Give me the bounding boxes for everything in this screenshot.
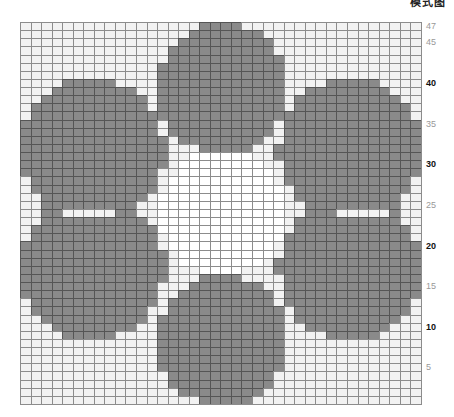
chart-cell [210, 323, 221, 331]
chart-cell [62, 168, 73, 176]
chart-cell [125, 144, 136, 152]
chart-cell [52, 168, 63, 176]
chart-cell [220, 258, 231, 266]
chart-cell [83, 103, 94, 111]
chart-cell [115, 371, 126, 379]
chart-cell [315, 347, 326, 355]
chart-cell [220, 306, 231, 314]
chart-cell [273, 380, 284, 388]
chart-cell [368, 217, 379, 225]
chart-cell [83, 71, 94, 79]
chart-cell [210, 282, 221, 290]
chart-cell [94, 347, 105, 355]
chart-cell [189, 201, 200, 209]
chart-cell [168, 363, 179, 371]
chart-cell [305, 193, 316, 201]
chart-cell [294, 388, 305, 396]
chart-cell [104, 282, 115, 290]
chart-cell [347, 371, 358, 379]
chart-cell [336, 396, 347, 404]
chart-cell [125, 274, 136, 282]
chart-cell [168, 233, 179, 241]
chart-cell [220, 168, 231, 176]
chart-cell [273, 120, 284, 128]
chart-cell [189, 128, 200, 136]
chart-cell [115, 152, 126, 160]
chart-cell [336, 46, 347, 54]
chart-cell [94, 274, 105, 282]
chart-cell [31, 233, 42, 241]
chart-cell [125, 95, 136, 103]
chart-cell [389, 371, 400, 379]
chart-cell [294, 176, 305, 184]
chart-cell [347, 266, 358, 274]
chart-cell [252, 323, 263, 331]
chart-cell [347, 347, 358, 355]
chart-cell [379, 274, 390, 282]
chart-cell [315, 144, 326, 152]
chart-cell [389, 185, 400, 193]
chart-cell [136, 87, 147, 95]
chart-cell [326, 38, 337, 46]
chart-cell [41, 55, 52, 63]
chart-cell [294, 168, 305, 176]
chart-cell [199, 380, 210, 388]
chart-cell [94, 339, 105, 347]
chart-cell [189, 152, 200, 160]
chart-cell [104, 193, 115, 201]
chart-cell [104, 306, 115, 314]
chart-cell [147, 30, 158, 38]
chart-cell [263, 315, 274, 323]
chart-cell [336, 233, 347, 241]
chart-cell [62, 363, 73, 371]
chart-cell [252, 38, 263, 46]
chart-cell [62, 355, 73, 363]
chart-cell [347, 315, 358, 323]
chart-cell [294, 347, 305, 355]
chart-cell [20, 87, 31, 95]
chart-cell [379, 87, 390, 95]
chart-cell [241, 160, 252, 168]
row-number-label: 47 [426, 22, 436, 31]
chart-cell [305, 136, 316, 144]
chart-cell [379, 371, 390, 379]
chart-cell [220, 388, 231, 396]
chart-cell [315, 185, 326, 193]
chart-cell [189, 46, 200, 54]
chart-cell [252, 331, 263, 339]
chart-cell [189, 323, 200, 331]
chart-cell [31, 225, 42, 233]
chart-cell [389, 152, 400, 160]
chart-cell [178, 79, 189, 87]
chart-cell [400, 95, 411, 103]
chart-cell [94, 233, 105, 241]
chart-cell [136, 355, 147, 363]
chart-cell [157, 241, 168, 249]
chart-cell [231, 217, 242, 225]
chart-cell [263, 185, 274, 193]
chart-cell [168, 144, 179, 152]
chart-cell [20, 79, 31, 87]
chart-cell [358, 363, 369, 371]
chart-cell [83, 339, 94, 347]
chart-cell [252, 111, 263, 119]
chart-cell [326, 201, 337, 209]
chart-cell [199, 38, 210, 46]
chart-cell [168, 282, 179, 290]
chart-cell [41, 152, 52, 160]
chart-cell [336, 258, 347, 266]
chart-cell [358, 380, 369, 388]
chart-cell [220, 87, 231, 95]
chart-cell [115, 347, 126, 355]
chart-cell [368, 152, 379, 160]
chart-cell [62, 111, 73, 119]
chart-cell [157, 306, 168, 314]
chart-cell [273, 339, 284, 347]
chart-cell [358, 63, 369, 71]
chart-cell [389, 347, 400, 355]
chart-cell [189, 55, 200, 63]
chart-cell [336, 241, 347, 249]
chart-cell [62, 103, 73, 111]
chart-cell [347, 306, 358, 314]
chart-cell [52, 217, 63, 225]
